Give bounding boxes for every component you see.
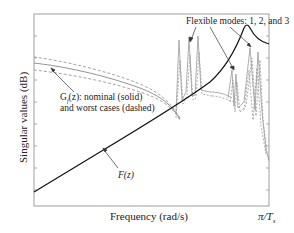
y-ticks-left: [34, 36, 37, 190]
x-tick-text: π/T: [258, 210, 273, 222]
singular-values-plot: [0, 0, 294, 233]
y-axis-label: Singular values (dB): [17, 73, 29, 163]
gf-symbol: G: [60, 92, 67, 102]
flexible-mode-1-peaks: [176, 36, 234, 118]
x-tick-pi-over-ts: π/Ts: [258, 210, 275, 225]
x-axis-label: Frequency (rad/s): [110, 210, 188, 222]
annotation-flexible-modes: Flexible modes: 1, 2, and 3: [186, 16, 289, 27]
x-tick-sub: s: [273, 217, 276, 225]
annotation-fz: F(z): [118, 170, 134, 181]
flexible-mode-3-peaks: [238, 48, 269, 162]
gf-text: (z): nominal (solid): [69, 92, 143, 102]
annotation-gf-line2: and worst cases (dashed): [60, 103, 155, 114]
y-ticks-right: [266, 36, 269, 190]
flexible-mode-2-peaks: [228, 70, 240, 112]
